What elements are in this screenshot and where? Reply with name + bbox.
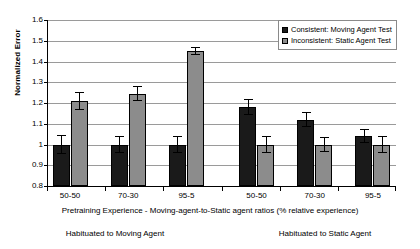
y-tick-label: 1.4 (21, 58, 43, 66)
error-bar-cap (262, 152, 271, 153)
error-bar-cap (133, 86, 142, 87)
y-tick-label: 0.9 (21, 161, 43, 169)
x-category-label: 70-30 (98, 191, 158, 200)
error-bar (306, 112, 307, 127)
legend-label-inconsistent: Inconsistent: Static Agent Test (291, 35, 391, 46)
error-bar (382, 136, 383, 153)
error-bar (248, 99, 249, 116)
y-tick-label: 1 (21, 141, 43, 149)
error-bar-cap (262, 136, 271, 137)
error-bar-cap (173, 136, 182, 137)
error-bar-cap (133, 100, 142, 101)
error-bar (137, 86, 138, 101)
x-category-label: 70-30 (285, 191, 345, 200)
error-bar-cap (57, 135, 66, 136)
error-bar-cap (244, 114, 253, 115)
error-bar (195, 47, 196, 55)
error-bar-cap (302, 126, 311, 127)
error-bar-cap (75, 109, 84, 110)
error-bar-cap (320, 137, 329, 138)
error-bar (324, 137, 325, 152)
error-bar (61, 135, 62, 154)
x-category-label: 95-5 (156, 191, 216, 200)
y-tick-label: 0.8 (21, 182, 43, 190)
bar (187, 51, 204, 186)
error-bar-cap (360, 129, 369, 130)
error-bar-cap (302, 112, 311, 113)
x-category-label: 50-50 (227, 191, 287, 200)
error-bar-cap (57, 153, 66, 154)
x-axis-line (47, 186, 396, 187)
chart-figure: Normalized Error 0.80.911.11.21.31.41.51… (0, 0, 420, 249)
legend-swatch-icon-consistent (282, 27, 288, 33)
error-bar-cap (191, 54, 200, 55)
error-bar (119, 136, 120, 153)
error-bar (266, 136, 267, 153)
error-bar (177, 136, 178, 153)
bar (129, 94, 146, 186)
bar (297, 120, 314, 186)
error-bar-cap (115, 152, 124, 153)
y-tick-label: 1.6 (21, 16, 43, 24)
y-tick-label: 1.5 (21, 37, 43, 45)
bar (71, 101, 88, 186)
group-caption-left: Habituated to Moving Agent (35, 229, 195, 238)
error-bar-cap (75, 92, 84, 93)
bar (355, 136, 372, 186)
legend-swatch-icon-inconsistent (282, 38, 288, 44)
x-axis-title: Pretraining Experience - Moving-agent-to… (0, 206, 420, 215)
error-bar-cap (320, 151, 329, 152)
group-caption-right: Habituated to Static Agent (245, 229, 405, 238)
y-tick-label: 1.3 (21, 78, 43, 86)
error-bar (364, 129, 365, 144)
error-bar-cap (173, 152, 182, 153)
error-bar-cap (378, 152, 387, 153)
y-tick-label: 1.1 (21, 120, 43, 128)
legend-label-consistent: Consistent: Moving Agent Test (291, 24, 392, 35)
bar (239, 107, 256, 186)
x-category-label: 50-50 (40, 191, 100, 200)
error-bar-cap (378, 136, 387, 137)
y-tick-label: 1.2 (21, 99, 43, 107)
error-bar-cap (115, 136, 124, 137)
error-bar-cap (244, 99, 253, 100)
x-tick-mark (222, 187, 223, 191)
legend: Consistent: Moving Agent Test Inconsiste… (278, 20, 397, 50)
error-bar-cap (191, 47, 200, 48)
legend-item-inconsistent: Inconsistent: Static Agent Test (282, 35, 392, 46)
legend-item-consistent: Consistent: Moving Agent Test (282, 24, 392, 35)
x-category-label: 95-5 (343, 191, 403, 200)
y-axis-line (47, 20, 48, 187)
error-bar (79, 92, 80, 111)
error-bar-cap (360, 142, 369, 143)
